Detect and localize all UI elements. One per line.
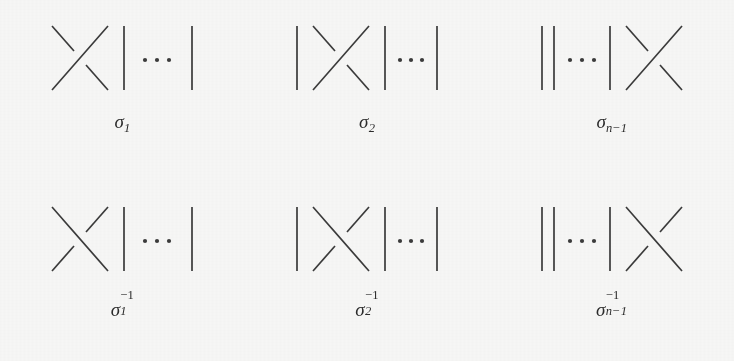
crossing-under-strand-upper bbox=[86, 207, 108, 232]
braid-diagram-sigma-n-minus-1-inverse bbox=[536, 195, 688, 283]
sigma-subscript: 2 bbox=[369, 121, 375, 135]
generator-sigma-2-inverse: σ−12 bbox=[245, 181, 490, 361]
crossing-under-strand-lower bbox=[347, 65, 369, 90]
ellipsis-dots bbox=[568, 238, 596, 242]
braid-generator-grid: σ1 σ2 bbox=[0, 0, 734, 361]
crossing-under-strand-lower bbox=[660, 65, 682, 90]
ellipsis-dots bbox=[568, 58, 596, 62]
braid-diagram-sigma-2-inverse bbox=[291, 195, 443, 283]
sigma-symbol: σ bbox=[596, 111, 606, 132]
crossing-under-strand-lower bbox=[313, 246, 335, 271]
crossing-under-strand-upper bbox=[626, 26, 648, 51]
crossing-under-strand-upper bbox=[347, 207, 369, 232]
sigma-superscript: −1 bbox=[365, 289, 379, 302]
generator-label-sigma-1: σ1 bbox=[114, 112, 130, 135]
crossing-under-strand-upper bbox=[52, 26, 74, 51]
crossing-under-strand-upper bbox=[660, 207, 682, 232]
crossing-under-strand-upper bbox=[313, 26, 335, 51]
sigma-symbol: σ bbox=[359, 111, 369, 132]
crossing-under-strand-lower bbox=[52, 246, 74, 271]
sigma-symbol: σ bbox=[355, 298, 365, 319]
generator-label-sigma-n-minus-1: σn−1 bbox=[596, 112, 627, 135]
sigma-symbol: σ bbox=[111, 298, 121, 319]
braid-diagram-sigma-2 bbox=[291, 14, 443, 102]
generator-sigma-n-minus-1-inverse: σ−1n−1 bbox=[489, 181, 734, 361]
braid-diagram-sigma-n-minus-1 bbox=[536, 14, 688, 102]
ellipsis-dots bbox=[398, 238, 424, 242]
sigma-sub-superscript: −1n−1 bbox=[606, 293, 628, 318]
sigma-subscript: 2 bbox=[365, 305, 379, 318]
generator-sigma-n-minus-1: σn−1 bbox=[489, 0, 734, 181]
sigma-subscript: n−1 bbox=[606, 305, 628, 318]
generator-label-sigma-n-minus-1-inverse: σ−1n−1 bbox=[596, 293, 627, 319]
sigma-sub-superscript: −11 bbox=[120, 293, 134, 318]
braid-diagram-sigma-1 bbox=[46, 14, 198, 102]
sigma-superscript: −1 bbox=[606, 289, 628, 302]
sigma-sub-superscript: −12 bbox=[365, 293, 379, 318]
braid-diagram-sigma-1-inverse bbox=[46, 195, 198, 283]
generator-label-sigma-2: σ2 bbox=[359, 112, 375, 135]
ellipsis-dots bbox=[143, 238, 171, 242]
crossing-under-strand-lower bbox=[86, 65, 108, 90]
generator-label-sigma-2-inverse: σ−12 bbox=[355, 293, 378, 319]
sigma-subscript: n−1 bbox=[606, 121, 627, 135]
generator-sigma-1: σ1 bbox=[0, 0, 245, 181]
generator-sigma-1-inverse: σ−11 bbox=[0, 181, 245, 361]
sigma-symbol: σ bbox=[596, 298, 606, 319]
ellipsis-dots bbox=[398, 58, 424, 62]
sigma-subscript: 1 bbox=[120, 305, 134, 318]
sigma-subscript: 1 bbox=[124, 121, 130, 135]
sigma-superscript: −1 bbox=[120, 289, 134, 302]
generator-sigma-2: σ2 bbox=[245, 0, 490, 181]
ellipsis-dots bbox=[143, 58, 171, 62]
generator-label-sigma-1-inverse: σ−11 bbox=[111, 293, 134, 319]
sigma-symbol: σ bbox=[114, 111, 124, 132]
crossing-under-strand-lower bbox=[626, 246, 648, 271]
